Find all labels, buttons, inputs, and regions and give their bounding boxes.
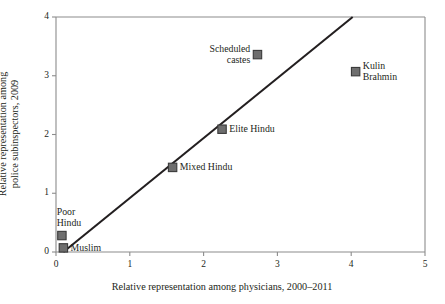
regression-line [63, 17, 352, 252]
y-axis-title-text: Relative representation among police sub… [0, 72, 21, 196]
y-tick-label: 3 [44, 71, 49, 81]
point-label-line2: Hindu [57, 217, 82, 228]
point-label-line1: Muslim [71, 241, 102, 252]
point-label: Muslim [71, 242, 102, 253]
marker-square [59, 244, 67, 252]
marker-square [351, 67, 359, 75]
y-tick-label: 2 [44, 130, 49, 140]
marker-square [253, 50, 261, 58]
x-axis-title-text: Relative representation among physicians… [112, 281, 333, 292]
y-axis-title-line2: police subinspectors, 2009 [9, 80, 20, 188]
point-label: KulinBrahmin [363, 61, 397, 83]
scatter-chart-figure: 012345 01234 MuslimPoorHinduMixed HinduE… [0, 0, 445, 304]
x-tick-label: 5 [423, 260, 428, 270]
point-label: Scheduledcastes [209, 44, 250, 66]
data-markers [58, 50, 360, 252]
x-axis-title: Relative representation among physicians… [112, 281, 333, 293]
point-label-line1: Scheduled [209, 43, 250, 54]
point-label-line1: Poor [57, 206, 76, 217]
point-label-line1: Kulin [363, 60, 385, 71]
y-tick-label: 0 [44, 247, 49, 257]
x-tick-label: 0 [54, 260, 59, 270]
point-label-line1: Mixed Hindu [180, 161, 233, 172]
point-label-line2: Brahmin [363, 71, 397, 82]
point-label: Mixed Hindu [180, 162, 233, 173]
x-tick-label: 4 [349, 260, 354, 270]
x-tick-label: 2 [201, 260, 206, 270]
point-label-line1: Elite Hindu [229, 123, 274, 134]
point-label-line2: castes [227, 54, 250, 65]
point-label: PoorHindu [57, 207, 82, 229]
marker-square [168, 163, 176, 171]
x-tick-label: 1 [127, 260, 132, 270]
x-tick-label: 3 [275, 260, 280, 270]
fit-line-segment [63, 17, 352, 252]
point-label: Elite Hindu [229, 124, 274, 135]
y-tick-label: 4 [44, 12, 49, 22]
y-tick-label: 1 [44, 189, 49, 199]
marker-square [58, 231, 66, 239]
marker-square [218, 125, 226, 133]
y-axis-title-line1: Relative representation among [0, 72, 8, 196]
